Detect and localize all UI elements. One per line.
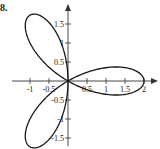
y-axis-arrow-icon — [65, 4, 71, 11]
y-tick-label: 1.5 — [54, 20, 64, 29]
y-tick-label: -1.5 — [51, 134, 64, 143]
x-axis-arrow-icon — [151, 78, 158, 84]
polar-rose-chart: -1-0.50.511.521.510.5-0.5-1-1.5 — [0, 0, 160, 149]
x-tick-label: -0.5 — [43, 85, 56, 94]
x-tick-label: 1 — [104, 85, 108, 94]
x-tick-label: -1 — [27, 85, 34, 94]
y-tick-label: 0.5 — [54, 58, 64, 67]
x-tick-label: 1.5 — [120, 85, 130, 94]
y-tick-label: -0.5 — [51, 96, 64, 105]
